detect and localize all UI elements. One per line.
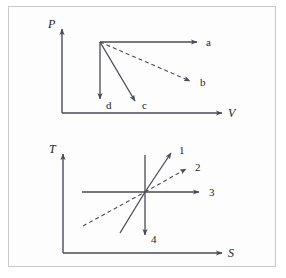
pv-branch-c-label: c	[142, 99, 147, 111]
ts-solid-tail	[120, 192, 145, 233]
pv-x-axis-label: V	[228, 106, 237, 120]
pv-branch-b-label: b	[200, 76, 206, 88]
ts-branch-2-label: 2	[195, 161, 201, 173]
ts-branch-2-line	[145, 169, 186, 192]
ts-x-axis-label: S	[228, 246, 234, 260]
figure-page: P V a b c d T S 2	[0, 0, 286, 278]
pv-y-axis-label: P	[47, 17, 56, 31]
ts-branch-3-label: 3	[209, 186, 215, 198]
ts-branch-1-line	[145, 153, 171, 192]
pv-branch-b-line	[100, 42, 190, 81]
pv-branch-d-label: d	[106, 99, 112, 111]
ts-diagram: T S 2 1 3 4	[49, 142, 234, 260]
ts-dashed-tail	[83, 192, 145, 226]
pv-branch-a-label: a	[206, 36, 211, 48]
pv-branch-c-line	[100, 42, 135, 101]
ts-branch-4-label: 4	[151, 233, 157, 245]
thermodynamic-diagrams: P V a b c d T S 2	[0, 0, 286, 278]
pv-diagram: P V a b c d	[47, 17, 237, 120]
ts-y-axis-label: T	[49, 142, 57, 156]
ts-branch-1-label: 1	[179, 144, 185, 156]
